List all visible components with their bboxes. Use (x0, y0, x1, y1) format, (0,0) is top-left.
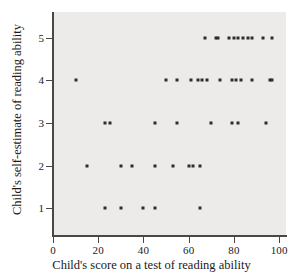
data-point (108, 121, 111, 124)
data-point (153, 121, 156, 124)
data-point (153, 164, 156, 167)
data-point (232, 36, 235, 39)
y-tick-label-3: 3 (30, 117, 44, 129)
y-tick-label-5: 5 (30, 32, 44, 44)
data-point (176, 121, 179, 124)
data-point (131, 164, 134, 167)
data-point (217, 36, 220, 39)
data-point (228, 36, 231, 39)
x-tick-label-80: 80 (228, 244, 239, 256)
data-point (104, 207, 107, 210)
data-point (196, 79, 199, 82)
x-tick-100 (279, 237, 280, 243)
x-tick-40 (143, 237, 144, 243)
data-point (104, 121, 107, 124)
x-tick-label-60: 60 (183, 244, 194, 256)
data-point (119, 207, 122, 210)
data-point (246, 36, 249, 39)
x-axis-title: Child's score on a test of reading abili… (0, 258, 303, 273)
data-point (239, 79, 242, 82)
data-point (192, 164, 195, 167)
data-point (251, 79, 254, 82)
x-tick-0 (53, 237, 54, 243)
data-point (251, 36, 254, 39)
data-point (74, 79, 77, 82)
x-tick-20 (98, 237, 99, 243)
plot-panel (53, 12, 286, 236)
data-point (187, 164, 190, 167)
data-point (230, 121, 233, 124)
y-axis-title: Child's self-estimate of reading ability (10, 10, 25, 230)
data-point (199, 164, 202, 167)
data-point (85, 164, 88, 167)
data-point (199, 207, 202, 210)
data-point (176, 79, 179, 82)
data-point (271, 36, 274, 39)
x-tick-label-100: 100 (271, 244, 288, 256)
data-point (219, 79, 222, 82)
y-axis-line (52, 12, 54, 236)
data-point (230, 79, 233, 82)
data-point (210, 121, 213, 124)
data-point (201, 79, 204, 82)
y-tick-1 (46, 208, 52, 209)
data-point (203, 36, 206, 39)
x-tick-80 (234, 237, 235, 243)
data-point (271, 79, 274, 82)
data-point (264, 121, 267, 124)
x-tick-label-20: 20 (93, 244, 104, 256)
y-tick-label-1: 1 (30, 202, 44, 214)
y-tick-label-2: 2 (30, 160, 44, 172)
data-point (237, 36, 240, 39)
data-point (165, 79, 168, 82)
data-point (262, 36, 265, 39)
data-point (189, 79, 192, 82)
data-point (237, 121, 240, 124)
data-point (119, 164, 122, 167)
y-tick-label-4: 4 (30, 74, 44, 86)
y-tick-5 (46, 38, 52, 39)
data-point (235, 79, 238, 82)
x-axis-line (52, 235, 287, 237)
y-tick-3 (46, 123, 52, 124)
data-point (142, 207, 145, 210)
x-tick-60 (189, 237, 190, 243)
data-point (153, 207, 156, 210)
data-point (171, 164, 174, 167)
scatter-plot-figure: 020406080100 12345 Child's score on a te… (0, 0, 303, 276)
x-tick-label-40: 40 (138, 244, 149, 256)
y-tick-2 (46, 166, 52, 167)
y-tick-4 (46, 80, 52, 81)
data-point (205, 79, 208, 82)
data-point (242, 36, 245, 39)
x-tick-label-0: 0 (50, 244, 56, 256)
